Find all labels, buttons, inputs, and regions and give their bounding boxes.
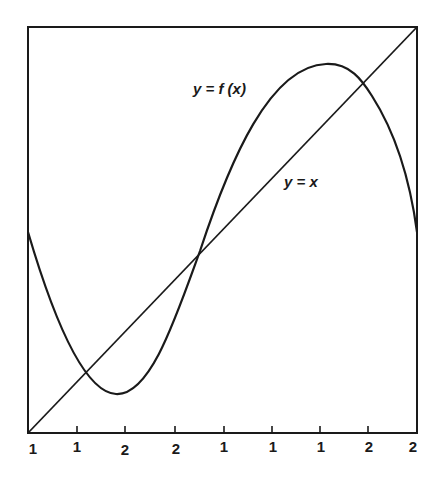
tick-label: 1 [317, 438, 325, 455]
tick-label: 1 [220, 438, 228, 455]
tick-label: 2 [121, 441, 129, 458]
diagonal-label: y = x [283, 173, 318, 190]
x-axis-tick-labels: 1 1 2 2 1 1 1 2 2 [29, 438, 417, 458]
tick-label: 1 [269, 438, 277, 455]
fixed-point-diagram: 1 1 2 2 1 1 1 2 2 y = f (x) y = x [0, 0, 441, 485]
curve-label: y = f (x) [192, 80, 246, 97]
tick-label: 1 [73, 438, 81, 455]
tick-label: 2 [172, 440, 180, 457]
tick-label: 2 [365, 438, 373, 455]
tick-label: 1 [29, 440, 37, 457]
x-axis-ticks [77, 426, 368, 433]
tick-label: 2 [409, 438, 417, 455]
